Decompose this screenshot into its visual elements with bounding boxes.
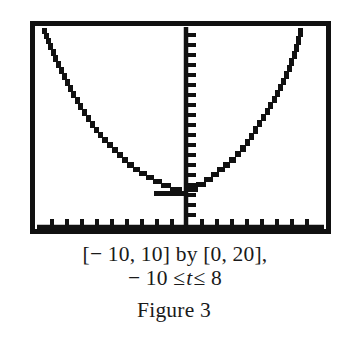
- figure-number-label: Figure 3: [0, 298, 348, 322]
- figure-caption: [− 10, 10] by [0, 20], − 10 ≤t≤ 8 Figure…: [0, 242, 348, 322]
- figure-container: [− 10, 10] by [0, 20], − 10 ≤t≤ 8 Figure…: [0, 0, 348, 339]
- graphing-calculator-screen: [30, 21, 331, 234]
- caption-domain-suffix: ≤ 8: [194, 266, 223, 290]
- plot-svg: [30, 21, 331, 234]
- caption-domain-prefix: − 10 ≤: [128, 266, 185, 290]
- caption-domain-restriction: − 10 ≤t≤ 8: [2, 266, 348, 290]
- caption-window-range: [− 10, 10] by [0, 20],: [2, 242, 348, 266]
- caption-domain-variable: t: [185, 266, 193, 290]
- plot-background: [30, 21, 331, 234]
